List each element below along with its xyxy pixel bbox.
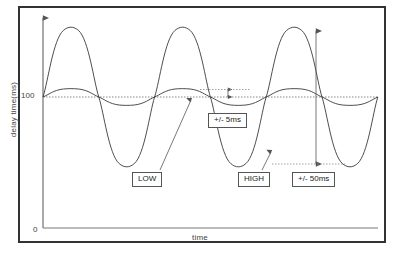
- callout-small-deviation: +/- 5ms: [208, 113, 247, 128]
- callout-high: HIGH: [238, 172, 270, 187]
- x-axis-label: time: [160, 233, 240, 242]
- callout-large-deviation: +/- 50ms: [292, 172, 335, 187]
- callout-low: LOW: [132, 172, 162, 187]
- figure-container: delay time(ms) time 100 0 LOW HIGH +/- 5…: [0, 0, 398, 263]
- y-tick-100: 100: [21, 91, 34, 100]
- low-amplitude-curve: [43, 89, 378, 106]
- high-leader-line: [262, 152, 271, 170]
- y-tick-0: 0: [33, 225, 37, 234]
- chart-plot-area: [0, 0, 398, 263]
- low-leader-line: [160, 100, 191, 170]
- y-axis-label: delay time(ms): [9, 75, 18, 145]
